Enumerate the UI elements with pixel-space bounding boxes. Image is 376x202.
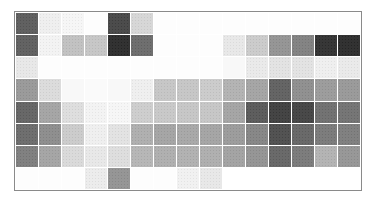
heatmap-cell [292,57,314,78]
heatmap-cell [200,102,222,123]
heatmap-cell [108,57,130,78]
heatmap-cell [131,35,153,56]
heatmap-cell [131,146,153,167]
heatmap-cell [338,13,360,34]
heatmap-cell [16,35,38,56]
heatmap-cell [177,168,199,189]
heatmap-cell [16,79,38,100]
heatmap-blank-region [223,168,360,189]
heatmap-cell [292,13,314,34]
heatmap-cell [292,124,314,145]
heatmap-cell [108,79,130,100]
heatmap-cell [246,124,268,145]
heatmap-cell [246,13,268,34]
heatmap-cell [39,79,61,100]
heatmap-cell [338,57,360,78]
heatmap-cell [62,124,84,145]
heatmap-cell [246,57,268,78]
heatmap-cell [315,35,337,56]
heatmap-cell [16,146,38,167]
heatmap-cell [39,124,61,145]
heatmap-cell [292,102,314,123]
heatmap-cell [85,168,107,189]
heatmap-cell [200,13,222,34]
heatmap-cell [338,102,360,123]
heatmap-cell [85,124,107,145]
heatmap-cell [200,168,222,189]
heatmap-cell [269,35,291,56]
heatmap-cell [223,146,245,167]
heatmap-cell [338,146,360,167]
heatmap-cell [131,13,153,34]
heatmap-cell [131,57,153,78]
heatmap-cell [16,13,38,34]
heatmap-cell [154,168,176,189]
heatmap-cell [154,13,176,34]
heatmap-cell [62,57,84,78]
heatmap-cell [154,79,176,100]
heatmap-cell [177,146,199,167]
heatmap-cell [269,57,291,78]
heatmap-cell [39,13,61,34]
heatmap-cell [108,35,130,56]
heatmap-cell [200,124,222,145]
heatmap-cell [177,124,199,145]
heatmap-cell [223,13,245,34]
heatmap-cell [223,35,245,56]
heatmap-cell [39,102,61,123]
heatmap-cell [269,102,291,123]
heatmap-cell [246,102,268,123]
heatmap-cell [177,79,199,100]
heatmap-cell [315,102,337,123]
heatmap-cell [62,13,84,34]
heatmap-cell [200,35,222,56]
heatmap-cell [200,146,222,167]
heatmap-cell [154,124,176,145]
heatmap-cell [200,57,222,78]
heatmap-cell [62,79,84,100]
heatmap-cell [269,146,291,167]
heatmap-cell [177,13,199,34]
matrix-frame [14,11,362,191]
heatmap-cell [62,35,84,56]
heatmap-cell [338,79,360,100]
heatmap-cell [85,13,107,34]
heatmap-cell [108,146,130,167]
heatmap-cell [62,168,84,189]
heatmap-figure [0,0,376,202]
heatmap-cell [108,124,130,145]
heatmap-cell [62,146,84,167]
heatmap-cell [16,57,38,78]
heatmap-cell [246,146,268,167]
heatmap-cell [223,79,245,100]
heatmap-cell [315,79,337,100]
heatmap-cell [131,102,153,123]
heatmap-cell [85,146,107,167]
heatmap-cell [39,57,61,78]
heatmap-cell [315,57,337,78]
heatmap-cell [85,102,107,123]
heatmap-cell [39,168,61,189]
heatmap-cell [315,13,337,34]
heatmap-cell [154,146,176,167]
heatmap-cell [16,102,38,123]
heatmap-cell [269,124,291,145]
heatmap-cell [16,124,38,145]
heatmap-cell [223,124,245,145]
heatmap-cell [269,13,291,34]
heatmap-cell [154,35,176,56]
heatmap-cell [200,79,222,100]
heatmap-cell [338,35,360,56]
heatmap-cell [62,102,84,123]
heatmap-cell [246,35,268,56]
heatmap-cell [315,146,337,167]
heatmap-cell [85,79,107,100]
heatmap-cell [292,35,314,56]
heatmap-cell [131,79,153,100]
heatmap-matrix [15,12,361,190]
heatmap-cell [154,102,176,123]
heatmap-cell [39,146,61,167]
heatmap-cell [154,57,176,78]
heatmap-cell [85,35,107,56]
heatmap-cell [177,102,199,123]
